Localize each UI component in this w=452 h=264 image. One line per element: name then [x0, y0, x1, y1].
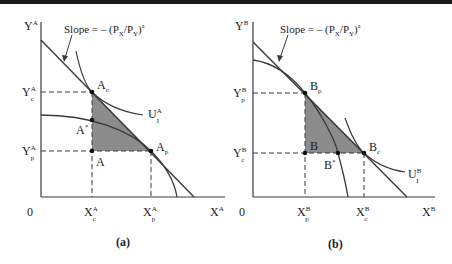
y-tick-yc-a: YAc — [22, 85, 36, 103]
indifference-label-a: UAI — [148, 107, 162, 125]
point-label-b-star: B* — [324, 158, 336, 172]
point-label-a: A — [96, 155, 105, 169]
slope-arrow-a — [65, 35, 72, 58]
arrowhead-b — [277, 55, 283, 62]
panel-b: YB Slope = – (PX/PY)a YBp YBc 0 XBp XBc … — [233, 19, 436, 251]
y-axis-label-a: YA — [24, 19, 38, 33]
origin-label-a: 0 — [27, 205, 33, 219]
trade-gains-diagram: YA Slope = – (PX/PY)a YAc YAp 0 XAc XAp … — [0, 0, 452, 264]
indifference-label-b: UBI — [408, 167, 422, 185]
point-a-star — [90, 118, 95, 123]
arrowhead-a — [62, 55, 68, 62]
point-label-bp: Bp — [310, 79, 322, 95]
price-line-b — [253, 42, 407, 197]
slope-label-a: Slope = – (PX/PY)a — [64, 23, 145, 38]
caption-b: (b) — [328, 237, 343, 251]
point-label-ac: Ac — [97, 78, 109, 94]
y-axis-label-b: YB — [235, 19, 249, 33]
x-tick-xc-a: XAc — [84, 205, 98, 223]
price-line-a — [41, 40, 194, 197]
point-label-bc: Bc — [369, 140, 380, 156]
point-a — [90, 149, 95, 154]
x-axis-label-b: XB — [422, 205, 436, 219]
x-tick-xp-b: XBp — [297, 205, 311, 223]
point-label-a-star: A* — [76, 123, 89, 137]
point-ac — [90, 90, 95, 95]
x-tick-xp-a: XAp — [143, 205, 157, 223]
point-bp — [303, 91, 308, 96]
point-bc — [362, 151, 367, 156]
point-ap — [149, 149, 154, 154]
y-tick-yc-b: YBc — [233, 146, 247, 164]
panel-a: YA Slope = – (PX/PY)a YAc YAp 0 XAc XAp … — [22, 19, 225, 249]
point-label-b: B — [310, 139, 318, 153]
caption-a: (a) — [116, 235, 130, 249]
point-label-ap: Ap — [156, 140, 169, 156]
point-b-star — [336, 151, 341, 156]
x-axis-label-a: XA — [210, 205, 224, 219]
origin-label-b: 0 — [239, 205, 245, 219]
y-tick-yp-a: YAp — [22, 144, 36, 162]
slope-arrow-b — [280, 35, 288, 58]
x-tick-xc-b: XBc — [356, 205, 370, 223]
indifference-curve-a — [76, 51, 143, 115]
slope-label-b: Slope = – (PX/PY)a — [280, 23, 361, 38]
y-tick-yp-b: YBp — [233, 86, 247, 104]
point-b — [303, 151, 308, 156]
